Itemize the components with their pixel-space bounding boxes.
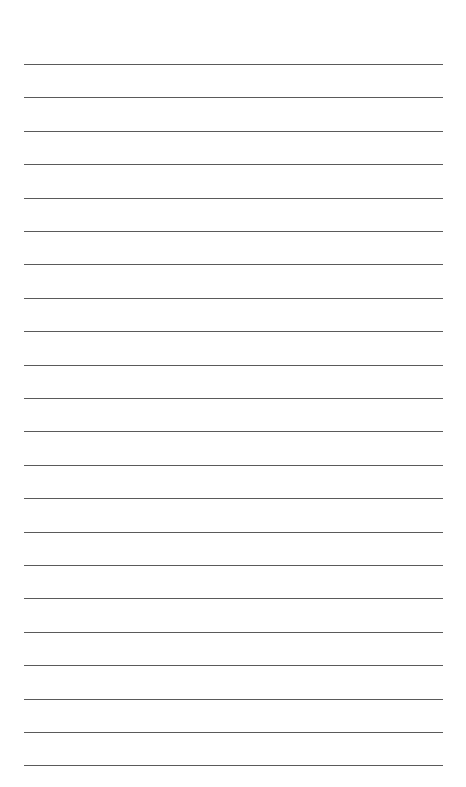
ruled-line — [24, 365, 443, 366]
ruled-line — [24, 264, 443, 265]
ruled-line — [24, 498, 443, 499]
ruled-line — [24, 699, 443, 700]
ruled-line — [24, 164, 443, 165]
ruled-line — [24, 598, 443, 599]
ruled-line — [24, 732, 443, 733]
ruled-line — [24, 298, 443, 299]
ruled-line — [24, 632, 443, 633]
ruled-line — [24, 231, 443, 232]
ruled-line — [24, 64, 443, 65]
lined-page — [0, 0, 466, 787]
ruled-line — [24, 665, 443, 666]
ruled-line — [24, 398, 443, 399]
ruled-line — [24, 331, 443, 332]
ruled-line — [24, 198, 443, 199]
ruled-line — [24, 131, 443, 132]
ruled-line — [24, 465, 443, 466]
ruled-line — [24, 431, 443, 432]
ruled-line — [24, 532, 443, 533]
ruled-line — [24, 765, 443, 766]
ruled-line — [24, 565, 443, 566]
ruled-line — [24, 97, 443, 98]
